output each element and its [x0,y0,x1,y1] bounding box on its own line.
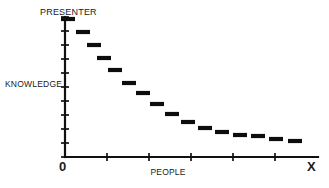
x-axis-label: PEOPLE [150,168,185,177]
decay-chart-plot [0,0,329,188]
chart-figure: PRESENTER KNOWLEDGE PEOPLE 0 X [0,0,329,188]
chart-axes [65,17,318,157]
x-axis-origin-label: 0 [59,160,66,173]
chart-data-markers [61,19,302,141]
y-axis-top-label: PRESENTER [40,8,97,17]
y-axis-label: KNOWLEDGE [5,80,62,89]
x-axis-end-label: X [307,160,316,173]
chart-tick-marks [61,17,275,161]
